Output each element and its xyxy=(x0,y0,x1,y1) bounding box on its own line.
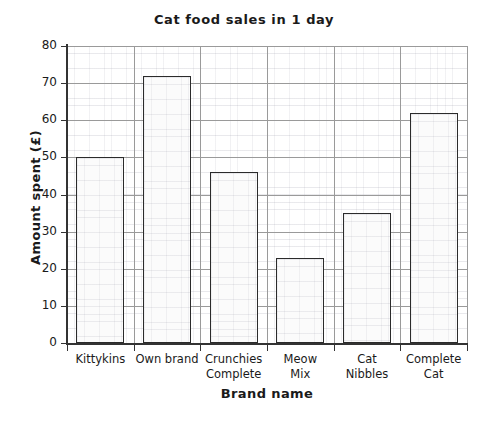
x-axis-title: Brand name xyxy=(67,386,467,401)
x-category-label-line1: Meow xyxy=(284,352,317,366)
x-category-label-line1: Kittykins xyxy=(75,352,125,366)
x-tick-mark xyxy=(267,345,268,351)
bar xyxy=(410,113,458,343)
y-tick-mark xyxy=(61,306,67,307)
gridline-vertical xyxy=(200,46,201,343)
gridline-horizontal xyxy=(67,232,467,233)
bar xyxy=(276,258,324,343)
x-category-label-line1: Complete xyxy=(406,352,461,366)
x-category-label: MeowMix xyxy=(267,352,334,382)
plot-area xyxy=(67,46,467,343)
chart-title: Cat food sales in 1 day xyxy=(0,12,488,27)
x-tick-mark xyxy=(200,345,201,351)
x-category-label-line2: Cat xyxy=(400,367,467,382)
gridline-horizontal xyxy=(67,120,467,121)
y-tick-mark xyxy=(61,120,67,121)
x-category-label: CrunchiesComplete xyxy=(200,352,267,382)
x-category-label-line2: Complete xyxy=(200,367,267,382)
x-category-label-line2: Nibbles xyxy=(334,367,401,382)
y-tick-mark xyxy=(61,195,67,196)
gridline-vertical xyxy=(134,46,135,343)
gridline-horizontal xyxy=(67,157,467,158)
x-category-label: Kittykins xyxy=(67,352,134,367)
gridline-vertical xyxy=(334,46,335,343)
gridline-horizontal xyxy=(67,269,467,270)
minor-gridlines xyxy=(67,46,467,343)
x-category-label-line1: Cat xyxy=(357,352,377,366)
gridline-vertical xyxy=(267,46,268,343)
x-category-label-line2: Mix xyxy=(267,367,334,382)
gridline-horizontal xyxy=(67,195,467,196)
bar xyxy=(76,157,124,343)
bar xyxy=(343,213,391,343)
gridline-horizontal xyxy=(67,306,467,307)
gridline-horizontal xyxy=(67,83,467,84)
major-gridlines xyxy=(67,46,467,343)
y-tick-mark xyxy=(61,269,67,270)
y-axis-title: Amount spent (£) xyxy=(28,48,43,348)
x-tick-mark xyxy=(134,345,135,351)
bar-chart: Cat food sales in 1 day 0102030405060708… xyxy=(0,0,488,422)
bar xyxy=(143,76,191,343)
x-category-label: CatNibbles xyxy=(334,352,401,382)
x-tick-mark xyxy=(67,345,68,351)
y-tick-mark xyxy=(61,83,67,84)
gridline-vertical xyxy=(467,46,468,343)
y-tick-mark xyxy=(61,343,67,344)
x-category-label-line1: Own brand xyxy=(135,352,198,366)
gridline-horizontal xyxy=(67,46,467,47)
gridline-vertical xyxy=(400,46,401,343)
x-category-label: CompleteCat xyxy=(400,352,467,382)
y-tick-mark xyxy=(61,157,67,158)
y-tick-mark xyxy=(61,46,67,47)
x-tick-mark xyxy=(400,345,401,351)
y-tick-mark xyxy=(61,232,67,233)
x-tick-mark xyxy=(334,345,335,351)
bar xyxy=(210,172,258,343)
x-tick-mark xyxy=(467,345,468,351)
x-category-label-line1: Crunchies xyxy=(205,352,262,366)
x-category-label: Own brand xyxy=(134,352,201,367)
